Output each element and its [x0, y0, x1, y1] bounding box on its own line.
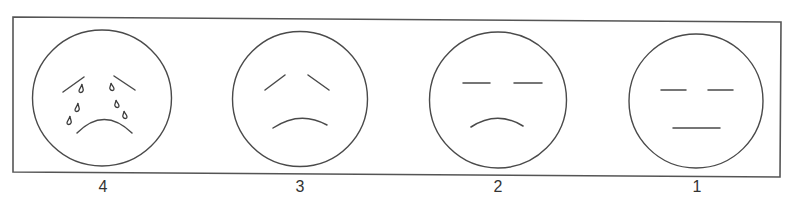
- face-3-sad: [233, 32, 368, 167]
- face-2-outline: [430, 32, 567, 168]
- rating-label-3: 3: [285, 178, 315, 196]
- rating-label-1: 1: [682, 178, 712, 196]
- face-4-outline: [33, 30, 172, 166]
- face-1-outline: [629, 34, 763, 168]
- rating-label-2: 2: [483, 178, 513, 196]
- rating-label-4: 4: [88, 178, 118, 196]
- face-1-neutral: [629, 34, 763, 168]
- face-4-crying: [33, 30, 172, 166]
- face-3-outline: [233, 32, 368, 167]
- face-2-slightly-sad: [430, 32, 567, 168]
- face-scale-diagram: [0, 0, 785, 198]
